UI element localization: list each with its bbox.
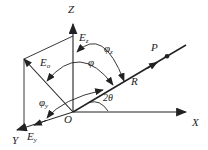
two-theta-angle-label: 2θ xyxy=(103,93,113,103)
phi-z-sub: z xyxy=(110,48,113,56)
point-p-dot xyxy=(165,54,170,59)
r-ray-label: R xyxy=(131,76,138,87)
e-y-label: Ey xyxy=(27,131,37,144)
x-axis-label: X xyxy=(192,117,199,128)
origin-label: O xyxy=(64,114,72,125)
e-z-sub: z xyxy=(86,37,89,45)
e-z-label: Ez xyxy=(79,32,88,45)
vector-diagram: Z X Y O P R Ez Eo Ey φ φz φy 2θ xyxy=(0,0,208,150)
ey-arrowhead xyxy=(34,121,46,126)
z-axis-label: Z xyxy=(68,4,74,15)
parallelogram-top-line xyxy=(24,36,73,59)
y-axis-label: Y xyxy=(12,135,18,146)
phi-angle-label: φ xyxy=(88,57,94,68)
r-direction-arrowhead xyxy=(147,63,157,69)
e-y-base: E xyxy=(27,130,34,142)
e-y-sub: y xyxy=(34,136,37,144)
point-p-label: P xyxy=(151,42,158,53)
phi-y-angle-label: φy xyxy=(39,97,48,110)
phi-z-angle-label: φz xyxy=(104,43,113,56)
e-o-base: E xyxy=(40,56,47,68)
phi-y-sub: y xyxy=(45,102,48,110)
diagram-canvas xyxy=(0,0,208,150)
e-o-sub: o xyxy=(47,62,51,70)
phi-y-arc xyxy=(47,90,103,118)
e-o-label: Eo xyxy=(40,57,50,70)
two-theta-arc xyxy=(89,102,108,111)
e-z-base: E xyxy=(79,31,86,43)
phi-arc xyxy=(47,62,113,85)
